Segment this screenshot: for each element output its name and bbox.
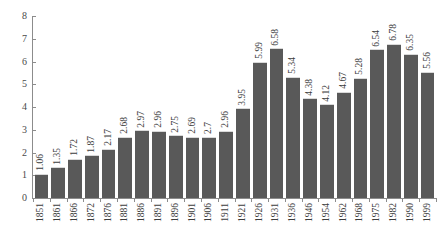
x-tick — [352, 198, 353, 202]
bar-slot[interactable]: 4.12 — [320, 16, 334, 198]
bar-slot[interactable]: 1.72 — [68, 16, 82, 198]
y-tick-label: 7 — [0, 34, 27, 44]
x-axis-label: 1982 — [389, 203, 399, 222]
bar-slot[interactable]: 1.87 — [85, 16, 99, 198]
x-axis-label: 1906 — [204, 203, 214, 222]
y-tick-label: 8 — [0, 11, 27, 21]
bar-slot[interactable]: 6.35 — [404, 16, 418, 198]
bar[interactable] — [236, 108, 250, 198]
bar[interactable] — [337, 92, 351, 198]
x-axis-label: 1962 — [339, 203, 349, 222]
bar-value-label: 6.54 — [372, 30, 382, 47]
x-tick — [335, 198, 336, 202]
x-axis-label: 1851 — [36, 203, 46, 222]
bar[interactable] — [68, 159, 82, 198]
bar[interactable] — [387, 44, 401, 198]
bar-value-label: 5.99 — [255, 42, 265, 59]
y-tick-label: 4 — [0, 102, 27, 112]
x-axis-label: 1891 — [154, 203, 164, 222]
bar-value-label: 4.38 — [305, 79, 315, 96]
bar-value-label: 2.96 — [221, 111, 231, 128]
bar-slot[interactable]: 2.75 — [169, 16, 183, 198]
bar-slot[interactable]: 2.97 — [135, 16, 149, 198]
bar-slot[interactable]: 2.96 — [219, 16, 233, 198]
bar-value-label: 2.96 — [154, 111, 164, 128]
bar-slot[interactable]: 6.78 — [387, 16, 401, 198]
x-tick — [151, 198, 152, 202]
bar[interactable] — [35, 174, 49, 198]
x-tick — [83, 198, 84, 202]
x-tick — [436, 198, 437, 202]
bar-slot[interactable]: 6.58 — [270, 16, 284, 198]
bar[interactable] — [118, 137, 132, 198]
bar[interactable] — [286, 77, 300, 198]
x-tick — [402, 198, 403, 202]
x-tick — [67, 198, 68, 202]
x-axis-label: 1881 — [120, 203, 130, 222]
x-axis-label: 1911 — [221, 203, 231, 222]
bar-slot[interactable]: 2.68 — [118, 16, 132, 198]
bar-slot[interactable]: 2.69 — [186, 16, 200, 198]
bar-value-label: 1.72 — [70, 139, 80, 156]
bar-value-label: 1.06 — [37, 154, 47, 171]
bar-slot[interactable]: 4.38 — [303, 16, 317, 198]
x-axis-label: 1896 — [171, 203, 181, 222]
x-tick — [251, 198, 252, 202]
bar-value-label: 6.78 — [389, 24, 399, 41]
bar-slot[interactable]: 5.99 — [253, 16, 267, 198]
bar[interactable] — [51, 167, 65, 198]
x-tick — [134, 198, 135, 202]
bar-chart: 012345678 1.061.351.721.872.172.682.972.… — [0, 0, 442, 243]
x-tick — [167, 198, 168, 202]
bar[interactable] — [253, 62, 267, 198]
x-axis-label: 1886 — [137, 203, 147, 222]
bar-slot[interactable]: 1.06 — [35, 16, 49, 198]
bar[interactable] — [85, 155, 99, 198]
x-tick — [318, 198, 319, 202]
x-axis-label: 1931 — [271, 203, 281, 222]
bar[interactable] — [421, 72, 435, 198]
x-tick — [201, 198, 202, 202]
x-axis-label: 1921 — [238, 203, 248, 222]
bar[interactable] — [320, 104, 334, 198]
y-tick-label: 6 — [0, 57, 27, 67]
x-axis-label: 1999 — [423, 203, 433, 222]
bar[interactable] — [354, 78, 368, 198]
bar-slot[interactable]: 5.28 — [354, 16, 368, 198]
bar-value-label: 2.69 — [188, 117, 198, 134]
bar-slot[interactable]: 2.96 — [152, 16, 166, 198]
bar[interactable] — [135, 130, 149, 198]
bar[interactable] — [303, 98, 317, 198]
x-axis-label: 1876 — [104, 203, 114, 222]
bar[interactable] — [102, 149, 116, 198]
bar[interactable] — [202, 137, 216, 198]
bar-value-label: 3.95 — [238, 89, 248, 106]
bar-value-label: 1.35 — [53, 148, 63, 165]
x-axis-label: 1990 — [406, 203, 416, 222]
bar[interactable] — [219, 131, 233, 198]
bar-slot[interactable]: 2.7 — [202, 16, 216, 198]
x-tick — [33, 198, 34, 202]
bar[interactable] — [270, 48, 284, 198]
bar-slot[interactable]: 1.35 — [51, 16, 65, 198]
y-tick-label: 2 — [0, 148, 27, 158]
bar-slot[interactable]: 3.95 — [236, 16, 250, 198]
bar-slot[interactable]: 5.34 — [286, 16, 300, 198]
bar-value-label: 4.67 — [339, 72, 349, 89]
bar-value-label: 2.17 — [104, 129, 114, 146]
bar-value-label: 5.34 — [289, 57, 299, 74]
x-axis-label: 1968 — [355, 203, 365, 222]
bar[interactable] — [152, 131, 166, 198]
bar[interactable] — [186, 137, 200, 198]
bar-slot[interactable]: 4.67 — [337, 16, 351, 198]
bar[interactable] — [404, 54, 418, 198]
x-tick — [419, 198, 420, 202]
bar[interactable] — [169, 135, 183, 198]
bar-slot[interactable]: 2.17 — [102, 16, 116, 198]
x-tick — [117, 198, 118, 202]
bar[interactable] — [370, 49, 384, 198]
x-axis-label: 1954 — [322, 203, 332, 222]
x-axis-label: 1872 — [87, 203, 97, 222]
bar-slot[interactable]: 5.56 — [421, 16, 435, 198]
bar-slot[interactable]: 6.54 — [370, 16, 384, 198]
